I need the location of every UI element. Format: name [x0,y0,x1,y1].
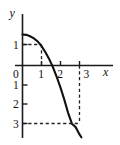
y-tick-label-neg-1: 1 [13,79,19,91]
origin-label: 0 [13,68,19,80]
x-tick-label-1: 1 [38,68,44,80]
graph-figure: y x 1 2 3 1 0 1 2 3 [0,0,120,145]
y-tick-label-neg-2: 2 [13,98,19,110]
curve-line [23,34,82,137]
plot-canvas: y x 1 2 3 1 0 1 2 3 [0,0,120,145]
x-tick-label-2: 2 [57,68,63,80]
y-axis-label: y [9,6,16,20]
y-tick-label-pos-1: 1 [13,39,19,51]
x-axis-label: x [102,65,109,79]
y-tick-label-neg-3: 3 [13,118,19,130]
x-tick-label-3: 3 [84,68,90,80]
